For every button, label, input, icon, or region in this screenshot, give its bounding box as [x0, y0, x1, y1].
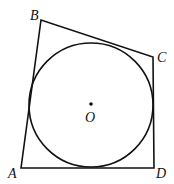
label-o: O: [85, 110, 95, 125]
center-point-o: [89, 102, 93, 106]
label-b: B: [30, 8, 39, 23]
label-d: D: [155, 166, 166, 181]
label-a: A: [7, 166, 17, 181]
quadrilateral-abcd: [21, 20, 154, 168]
label-c: C: [157, 50, 167, 65]
diagram: B C D A O: [0, 0, 174, 184]
